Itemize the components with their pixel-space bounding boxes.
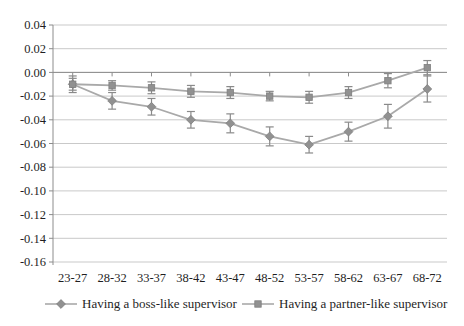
data-point-diamond	[147, 102, 156, 111]
y-tick-label: -0.10	[20, 184, 46, 198]
data-point-square	[188, 88, 194, 94]
x-tick-label: 58-62	[334, 271, 363, 285]
data-point-diamond	[265, 132, 274, 141]
x-tick-label: 53-57	[295, 271, 324, 285]
data-point-square	[109, 82, 115, 88]
y-tick-label: -0.04	[20, 113, 47, 127]
data-point-diamond	[187, 115, 196, 124]
legend-item-partner: Having a partner-like supervisor	[241, 296, 447, 312]
y-tick-label: -0.08	[20, 160, 46, 174]
legend: Having a boss-like supervisor Having a p…	[0, 292, 464, 318]
x-tick-label: 23-27	[58, 271, 87, 285]
x-tick-label: 48-52	[255, 271, 284, 285]
y-tick-label: -0.16	[20, 255, 46, 269]
partner-series-sample-icon	[241, 298, 275, 310]
x-tick-label: 68-72	[413, 271, 442, 285]
y-tick-label: 0.00	[24, 66, 46, 80]
data-point-square	[148, 85, 154, 91]
data-point-diamond	[305, 140, 314, 149]
data-point-diamond	[344, 127, 353, 136]
y-tick-label: 0.02	[24, 42, 46, 56]
data-point-square	[70, 81, 76, 87]
x-tick-label: 28-32	[98, 271, 127, 285]
y-tick-label: -0.12	[20, 208, 46, 222]
legend-label-partner: Having a partner-like supervisor	[279, 296, 447, 312]
x-tick-label: 33-37	[137, 271, 166, 285]
data-point-square	[345, 89, 351, 95]
boss-series-sample-icon	[44, 298, 78, 310]
data-point-square	[227, 89, 233, 95]
data-point-square	[306, 94, 312, 100]
plot-area: 0.040.020.00-0.02-0.04-0.06-0.08-0.10-0.…	[0, 0, 464, 290]
x-tick-label: 63-67	[373, 271, 402, 285]
series-line-boss	[73, 84, 428, 144]
x-tick-label: 43-47	[216, 271, 245, 285]
legend-item-boss: Having a boss-like supervisor	[44, 296, 237, 312]
data-point-diamond	[108, 96, 117, 105]
data-point-square	[424, 64, 430, 70]
chart-container: 0.040.020.00-0.02-0.04-0.06-0.08-0.10-0.…	[0, 0, 464, 326]
y-tick-label: -0.14	[20, 232, 47, 246]
x-tick-label: 38-42	[176, 271, 205, 285]
y-tick-label: -0.02	[20, 89, 46, 103]
y-tick-label: -0.06	[20, 137, 46, 151]
y-tick-label: 0.04	[24, 18, 47, 32]
data-point-square	[267, 93, 273, 99]
legend-label-boss: Having a boss-like supervisor	[82, 296, 237, 312]
data-point-square	[385, 77, 391, 83]
